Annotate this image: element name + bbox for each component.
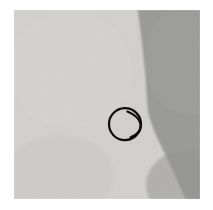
image-viewport: Grayscale image with a light area on the… <box>0 0 213 210</box>
film-grain-overlay <box>14 10 200 199</box>
content-frame <box>5 5 213 210</box>
grayscale-image <box>0 0 213 210</box>
image-svg <box>0 0 213 210</box>
